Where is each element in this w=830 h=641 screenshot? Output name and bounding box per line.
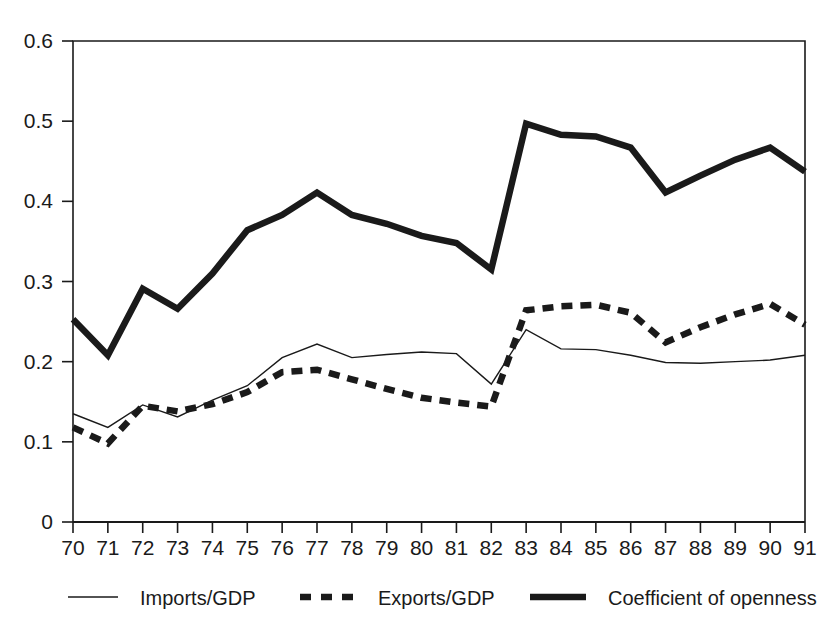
plot-frame [73, 41, 805, 522]
legend-label: Imports/GDP [140, 587, 256, 609]
x-tick-label: 72 [131, 536, 154, 559]
x-tick-label: 75 [236, 536, 259, 559]
legend-label: Exports/GDP [378, 587, 495, 609]
line-chart: 00.10.20.30.40.50.6 70717273747576777879… [0, 0, 830, 641]
x-tick-label: 86 [619, 536, 642, 559]
x-tick-label: 87 [654, 536, 677, 559]
x-tick-label: 79 [375, 536, 398, 559]
series-line-coefficient-of-openness [73, 124, 805, 356]
chart-figure: 00.10.20.30.40.50.6 70717273747576777879… [0, 0, 830, 641]
legend-label: Coefficient of openness [608, 587, 817, 609]
series-line-exports-gdp [73, 304, 805, 443]
x-tick-label: 80 [410, 536, 433, 559]
x-tick-label: 84 [549, 536, 573, 559]
chart-legend: Imports/GDPExports/GDPCoefficient of ope… [68, 587, 817, 609]
x-axis: 7071727374757677787980818283848586878889… [61, 522, 816, 559]
x-tick-label: 73 [166, 536, 189, 559]
y-tick-label: 0.6 [24, 29, 53, 52]
x-tick-label: 83 [514, 536, 537, 559]
x-tick-label: 70 [61, 536, 84, 559]
x-tick-label: 76 [270, 536, 293, 559]
y-tick-label: 0.1 [24, 430, 53, 453]
x-tick-label: 81 [445, 536, 468, 559]
x-tick-label: 91 [793, 536, 816, 559]
x-tick-label: 89 [724, 536, 747, 559]
x-tick-label: 82 [480, 536, 503, 559]
y-tick-label: 0.5 [24, 109, 53, 132]
x-tick-label: 90 [758, 536, 781, 559]
x-tick-label: 78 [340, 536, 363, 559]
x-tick-label: 88 [689, 536, 712, 559]
x-tick-label: 71 [96, 536, 119, 559]
data-series-group [73, 124, 805, 444]
y-axis: 00.10.20.30.40.50.6 [24, 29, 73, 533]
x-tick-label: 85 [584, 536, 607, 559]
x-tick-label: 77 [305, 536, 328, 559]
y-tick-label: 0.2 [24, 350, 53, 373]
y-tick-label: 0.3 [24, 270, 53, 293]
plot-border [73, 41, 805, 522]
series-line-imports-gdp [73, 330, 805, 428]
y-tick-label: 0.4 [24, 189, 54, 212]
y-tick-label: 0 [41, 510, 53, 533]
x-tick-label: 74 [201, 536, 225, 559]
